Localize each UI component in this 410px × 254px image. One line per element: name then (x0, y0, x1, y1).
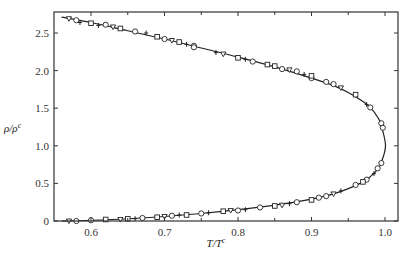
y-tick-label: 1.0 (35, 140, 49, 152)
y-axis-label: ρ/ρc (3, 121, 22, 134)
x-axis-label: T/Tc (207, 236, 226, 249)
coexistence-curve (62, 17, 386, 221)
y-axis-ticks: 00.51.01.52.02.5 (35, 27, 398, 227)
x-tick-label: 0.8 (231, 226, 245, 238)
coexistence-chart: 0.60.70.80.91.0 00.51.01.52.02.5 T/Tc ρ/… (0, 0, 410, 254)
x-tick-label: 0.7 (158, 226, 172, 238)
y-tick-label: 0.5 (35, 177, 49, 189)
y-tick-label: 0 (44, 215, 50, 227)
plot-area (62, 17, 386, 224)
series-square (89, 21, 366, 222)
y-tick-label: 1.5 (35, 102, 49, 114)
series-cross (78, 20, 376, 221)
x-tick-label: 0.9 (305, 226, 319, 238)
x-tick-label: 0.6 (84, 226, 98, 238)
y-tick-label: 2.5 (35, 27, 49, 39)
y-tick-label: 2.0 (35, 65, 49, 77)
series-triangle (66, 17, 343, 224)
x-axis-ticks: 0.60.70.80.91.0 (84, 12, 392, 238)
x-tick-label: 1.0 (378, 226, 392, 238)
